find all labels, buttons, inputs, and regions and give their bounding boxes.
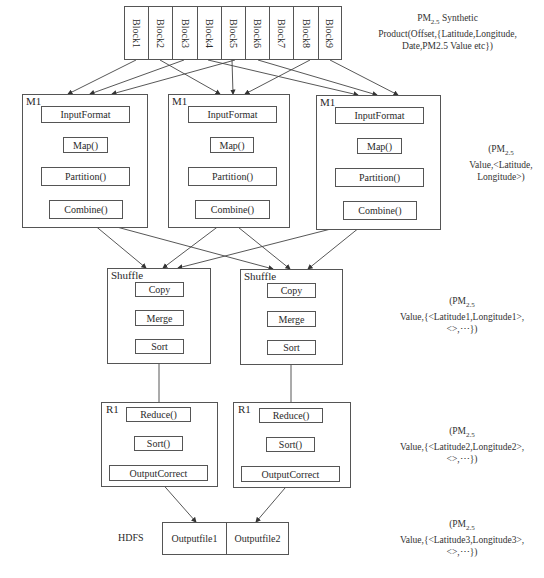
input-format-step: InputFormat xyxy=(41,106,130,123)
shuffle-node-title: Shuffle xyxy=(111,269,143,281)
reduce-output-annotation: (PM2.5 Value,{<Latitude2,Longitude2>, <>… xyxy=(380,425,544,465)
sort-step: Sort xyxy=(267,340,316,355)
input-annotation: PM2.5 Synthetic Product(Offset,{Latitude… xyxy=(355,12,540,52)
block-4: Block4 xyxy=(197,6,221,60)
copy-step: Copy xyxy=(267,283,316,298)
combine-step: Combine() xyxy=(343,201,417,220)
merge-step: Merge xyxy=(135,310,184,326)
output-correct-step: OutputCorrect xyxy=(109,465,208,481)
block-3: Block3 xyxy=(172,6,196,60)
output-correct-step: OutputCorrect xyxy=(241,466,340,482)
map-node-title: M1 xyxy=(26,95,41,107)
map-node-title: M1 xyxy=(172,95,187,107)
output-file-2: Outputfile2 xyxy=(226,522,289,555)
partition-step: Partition() xyxy=(335,168,424,187)
output-file-1: Outputfile1 xyxy=(162,522,227,555)
shuffle-node-title: Shuffle xyxy=(244,270,276,282)
hdfs-label: HDFS xyxy=(118,532,144,543)
partition-step: Partition() xyxy=(188,167,277,186)
block-6: Block6 xyxy=(245,6,269,60)
map-step: Map() xyxy=(357,138,402,154)
block-8: Block8 xyxy=(293,6,317,60)
merge-step: Merge xyxy=(267,311,316,327)
input-format-step: InputFormat xyxy=(335,107,424,124)
hdfs-output-annotation: (PM2.5 Value,{<Latitude3,Longitude3>, <>… xyxy=(380,518,544,558)
map-step: Map() xyxy=(63,137,108,153)
sort-step: Sort() xyxy=(134,436,183,451)
reduce-node-title: R1 xyxy=(106,403,119,415)
map-output-annotation: (PM2.5 Value,<Latitude, Longitude>) xyxy=(458,143,544,183)
block-5: Block5 xyxy=(221,6,245,60)
shuffle-output-annotation: (PM2.5 Value,{<Latitude1,Longitude1>, <>… xyxy=(380,295,544,335)
map-node-title: M1 xyxy=(320,96,335,108)
input-format-step: InputFormat xyxy=(188,106,277,123)
copy-step: Copy xyxy=(135,282,184,297)
combine-step: Combine() xyxy=(195,200,270,219)
sort-step: Sort() xyxy=(266,437,315,452)
partition-step: Partition() xyxy=(41,167,130,186)
reduce-step: Reduce() xyxy=(259,408,323,423)
reduce-step: Reduce() xyxy=(126,407,191,422)
sort-step: Sort xyxy=(135,339,184,354)
block-7: Block7 xyxy=(269,6,293,60)
reduce-node-title: R1 xyxy=(238,403,251,415)
block-2: Block2 xyxy=(148,6,172,60)
block-9: Block9 xyxy=(318,6,342,60)
combine-step: Combine() xyxy=(49,200,123,219)
block-1: Block1 xyxy=(124,6,148,60)
map-step: Map() xyxy=(210,137,254,153)
